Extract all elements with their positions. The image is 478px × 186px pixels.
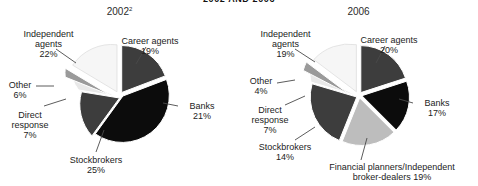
leader-line-direct-response-2002 — [44, 99, 66, 106]
leader-line-other-2006 — [277, 80, 295, 83]
pie-label-other-2002: Other 6% — [2, 80, 38, 100]
pie-label-banks-2002: Banks 21% — [180, 101, 224, 121]
pie-label-financial-planners-2006: Financial planners/Independent broker-de… — [307, 162, 477, 182]
pie-label-independent-agents-2006: Independent agents 19% — [243, 29, 328, 59]
pie-label-career-agents-2006: Career agents 20% — [351, 35, 427, 55]
chart-panel-2002: 20022 — [0, 0, 239, 186]
pie-label-independent-agents-2002: Independent agents 22% — [6, 29, 91, 59]
pie-label-banks-2006: Banks 17% — [415, 98, 459, 118]
pie-label-stockbrokers-2002: Stockbrokers 25% — [52, 155, 140, 175]
leader-line-direct-response-2006 — [285, 96, 305, 105]
chart-panel-2006: 2006 — [239, 0, 478, 186]
pie-label-direct-response-2006: Direct response 7% — [239, 105, 301, 135]
pie-label-career-agents-2002: Career agents 19% — [112, 36, 188, 56]
pie-label-stockbrokers-2006: Stockbrokers 14% — [241, 142, 329, 162]
two-pie-chart-figure: 2002 AND 2006 20022 — [0, 0, 478, 186]
pie-label-direct-response-2002: Direct response 7% — [0, 110, 60, 140]
pie-label-other-2006: Other 4% — [243, 76, 279, 96]
